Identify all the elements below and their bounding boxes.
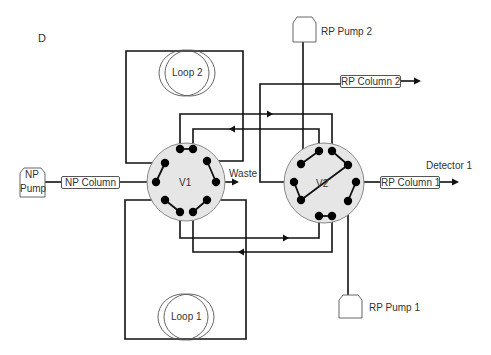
detector-1-label: Detector 1 (426, 161, 472, 171)
valve-v1-label: V1 (179, 178, 191, 188)
rp-column-2-box: RP Column 2 (340, 75, 401, 88)
v1-port (176, 145, 184, 153)
rp-column-1-box: RP Column 1 (380, 176, 440, 189)
panel-label: D (38, 33, 46, 44)
valve-v2-label: V2 (316, 179, 328, 189)
v2-port (315, 212, 323, 220)
v2-port (297, 196, 305, 204)
flow-arrow-left-lower-icon (238, 249, 244, 256)
rp-pump1-label: RP Pump 1 (369, 303, 420, 313)
rp-pump2-label: RP Pump 2 (321, 27, 372, 37)
column2-arrow-icon (414, 78, 421, 85)
v1-port (161, 196, 169, 204)
v1-port (189, 145, 197, 153)
waste-arrow-icon (232, 179, 239, 186)
v2-port (344, 161, 352, 169)
waste-label: Waste (229, 169, 257, 179)
np-column-box: NP Column (61, 176, 120, 189)
v1-port (203, 157, 211, 165)
np-pump-label-line2: Pump (20, 184, 46, 194)
v2-port (328, 147, 336, 155)
v1-port (176, 208, 184, 216)
loop2-label: Loop 2 (172, 68, 203, 78)
v2-port (328, 212, 336, 220)
column1-arrow-icon (452, 179, 459, 186)
flow-arrow-left-upper-icon (229, 126, 235, 133)
v2-port (315, 147, 323, 155)
v1-port (203, 196, 211, 204)
v2-port (297, 160, 305, 168)
np-pump-label-line1: NP (25, 170, 39, 180)
flow-arrow-right-upper-icon (267, 111, 273, 118)
v2-port (344, 197, 352, 205)
rp-pump1-shape (339, 295, 362, 318)
flow-arrow-right-lower-icon (283, 235, 289, 242)
v2-port (352, 178, 360, 186)
v2-to-v1-upper-line (193, 129, 319, 151)
v2-port (290, 178, 298, 186)
loop1-label: Loop 1 (171, 312, 202, 322)
v1-port (189, 208, 197, 216)
v1-port (152, 178, 160, 186)
v1-port (212, 178, 220, 186)
v1-port (161, 159, 169, 167)
rp-pump2-shape (293, 17, 316, 42)
